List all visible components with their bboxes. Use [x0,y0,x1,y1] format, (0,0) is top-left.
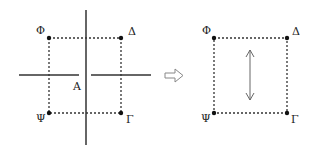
left-diagram: Φ Δ Ψ Γ A [19,10,151,145]
dot-gamma [119,111,123,115]
label-phi: Φ [202,24,211,37]
label-delta: Δ [292,25,300,38]
dot-phi [47,36,51,40]
diagram-canvas: Φ Δ Ψ Γ A Φ Δ Ψ Γ [0,0,316,153]
dot-phi [212,36,216,40]
diagram-svg: Φ Δ Ψ Γ A Φ Δ Ψ Γ [0,0,316,153]
label-psi: Ψ [201,112,211,125]
label-delta: Δ [128,25,136,38]
dot-psi [47,111,51,115]
double-arrow-icon [246,50,254,100]
label-gamma: Γ [291,113,299,126]
dot-gamma [285,111,289,115]
dot-delta [285,36,289,40]
dot-delta [119,36,123,40]
dot-psi [212,111,216,115]
label-gamma: Γ [126,113,134,126]
label-psi: Ψ [36,112,46,125]
label-phi: Φ [36,24,45,37]
transition-arrow-icon [165,69,183,82]
right-diagram: Φ Δ Ψ Γ [201,24,300,126]
label-a: A [72,80,82,93]
